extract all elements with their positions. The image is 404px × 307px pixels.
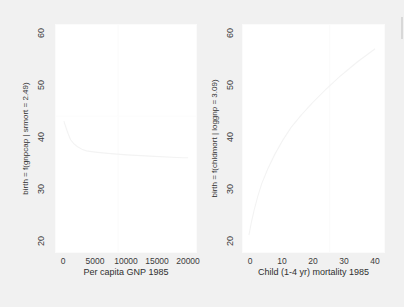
panel-chldmort: birth = f(chldmort | loggnp = 3.09) 60 5… — [202, 0, 404, 307]
y-axis-label-right-text: birth = f(chldmort | loggnp = 3.09) — [210, 79, 219, 197]
y-tick-right-30: 30 — [225, 178, 235, 200]
figure-canvas: birth = f(gnpcap | srmort = 2.49) 60 50 … — [0, 0, 404, 307]
curve-chldmort-effect — [249, 49, 375, 235]
plot-svg-left — [56, 25, 196, 252]
x-tick-right-0: 0 — [248, 256, 253, 267]
x-axis-label-right: Child (1-4 yr) mortality 1985 — [242, 267, 385, 277]
y-tick-right-20: 20 — [225, 230, 235, 252]
y-tick-left-40: 40 — [36, 126, 46, 148]
x-axis-label-left: Per capita GNP 1985 — [55, 267, 197, 277]
x-tick-left-0: 0 — [61, 256, 66, 267]
x-tick-left-15000: 15000 — [145, 256, 169, 267]
y-tick-right-60: 60 — [225, 22, 235, 44]
x-tick-right-20: 20 — [308, 256, 317, 267]
x-tick-left-5000: 5000 — [86, 256, 105, 267]
y-tick-right-40: 40 — [225, 126, 235, 148]
curve-gnpcap-effect — [64, 121, 188, 158]
plot-svg-right — [243, 25, 384, 252]
figure-edge-mark — [401, 17, 403, 39]
y-tick-left-20: 20 — [36, 230, 46, 252]
y-tick-right-50: 50 — [225, 74, 235, 96]
y-tick-left-60: 60 — [36, 22, 46, 44]
plot-area-right — [242, 24, 385, 253]
x-tick-right-30: 30 — [339, 256, 348, 267]
y-tick-labels-right: 60 50 40 30 20 — [219, 24, 241, 253]
plot-area-left — [55, 24, 197, 253]
y-tick-left-30: 30 — [36, 178, 46, 200]
x-tick-left-20000: 20000 — [176, 256, 200, 267]
x-tick-right-10: 10 — [277, 256, 286, 267]
y-axis-label-left-text: birth = f(gnpcap | srmort = 2.49) — [21, 82, 30, 194]
panel-gnpcap: birth = f(gnpcap | srmort = 2.49) 60 50 … — [0, 0, 202, 307]
y-tick-left-50: 50 — [36, 74, 46, 96]
y-tick-labels-left: 60 50 40 30 20 — [30, 24, 52, 253]
x-tick-left-10000: 10000 — [114, 256, 138, 267]
x-tick-right-40: 40 — [370, 256, 379, 267]
